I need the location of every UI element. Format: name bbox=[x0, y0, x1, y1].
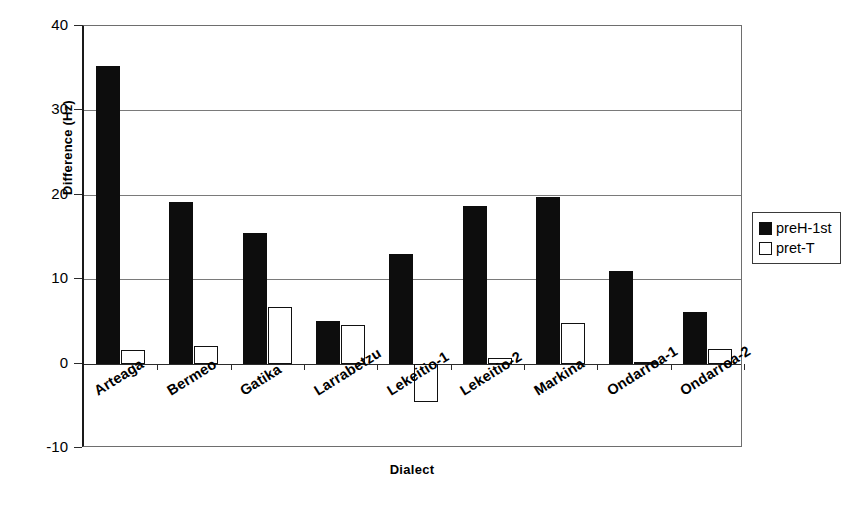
bar bbox=[316, 321, 340, 364]
bar bbox=[389, 254, 413, 364]
legend-swatch-icon bbox=[759, 242, 772, 255]
bar bbox=[463, 206, 487, 364]
legend-item: pret-T bbox=[759, 238, 832, 258]
y-tick-mark bbox=[74, 447, 82, 448]
bar bbox=[96, 66, 120, 364]
bar bbox=[169, 202, 193, 364]
legend-label: pret-T bbox=[776, 241, 815, 256]
bar bbox=[609, 271, 633, 364]
x-tick-mark bbox=[451, 364, 452, 370]
y-tick-mark bbox=[74, 363, 82, 364]
x-tick-mark bbox=[377, 364, 378, 370]
legend-swatch-icon bbox=[759, 222, 772, 235]
legend: preH-1stpret-T bbox=[752, 212, 841, 264]
x-tick-mark bbox=[157, 364, 158, 370]
legend-label: preH-1st bbox=[776, 221, 832, 236]
x-tick-mark bbox=[304, 364, 305, 370]
gridline bbox=[84, 195, 741, 196]
y-tick-mark bbox=[74, 109, 82, 110]
y-tick-mark bbox=[74, 278, 82, 279]
y-tick-label: -10 bbox=[20, 439, 68, 454]
bar bbox=[243, 233, 267, 364]
y-tick-label: 0 bbox=[20, 355, 68, 370]
y-tick-label: 20 bbox=[20, 186, 68, 201]
y-tick-label: 10 bbox=[20, 270, 68, 285]
x-tick-mark bbox=[671, 364, 672, 370]
y-tick-mark bbox=[74, 194, 82, 195]
bar bbox=[268, 307, 292, 364]
x-tick-mark bbox=[597, 364, 598, 370]
legend-item: preH-1st bbox=[759, 218, 832, 238]
gridline bbox=[84, 110, 741, 111]
y-tick-mark bbox=[74, 25, 82, 26]
y-tick-label: 30 bbox=[20, 101, 68, 116]
x-axis-title: Dialect bbox=[82, 462, 742, 477]
x-tick-mark bbox=[744, 364, 745, 370]
x-tick-mark bbox=[524, 364, 525, 370]
bar bbox=[536, 197, 560, 363]
bar-chart-figure: Difference (Hz) 403020100-10 ArteagaBerm… bbox=[0, 0, 864, 509]
x-tick-mark bbox=[231, 364, 232, 370]
bar bbox=[683, 312, 707, 363]
y-tick-label: 40 bbox=[20, 17, 68, 32]
